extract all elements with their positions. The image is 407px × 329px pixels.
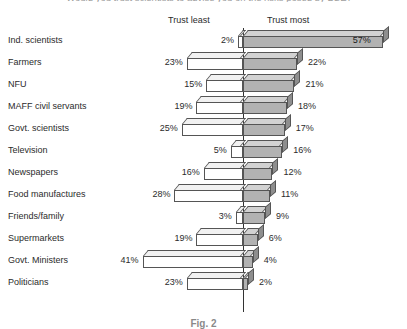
bar-trust-least xyxy=(143,256,243,268)
bar-trust-least xyxy=(231,146,243,158)
value-label-trust-least: 28% xyxy=(152,189,170,199)
bar-side-face xyxy=(270,180,276,197)
bar-trust-most xyxy=(243,256,253,268)
chart-plot-area: Ind. scientists2%57%Farmers23%22%NFU15%2… xyxy=(0,28,407,312)
bar-trust-least xyxy=(236,212,243,224)
category-label-govt-scientists: Govt. scientists xyxy=(8,123,69,133)
category-label-farmers: Farmers xyxy=(8,57,42,67)
chart-row: Newspapers16%12% xyxy=(0,162,407,184)
category-label-politicians: Politicians xyxy=(8,277,49,287)
bar-side-face xyxy=(287,92,293,109)
bar-trust-most xyxy=(243,58,297,70)
figure-bse-trust-chart: Would you trust scientists to advise you… xyxy=(0,0,407,329)
chart-row: Television5%16% xyxy=(0,140,407,162)
category-label-nfu: NFU xyxy=(8,79,27,89)
category-label-newspapers: Newspapers xyxy=(8,167,58,177)
value-label-trust-least: 3% xyxy=(219,211,232,221)
bar-trust-least xyxy=(206,80,243,92)
chart-row: Supermarkets19%6% xyxy=(0,228,407,250)
chart-row: Friends/family3%9% xyxy=(0,206,407,228)
value-label-trust-most: 18% xyxy=(298,101,316,111)
bar-trust-most xyxy=(243,212,265,224)
bar-top-face xyxy=(243,118,288,124)
value-label-trust-least: 5% xyxy=(214,145,227,155)
chart-row: Govt. scientists25%17% xyxy=(0,118,407,140)
bar-trust-least xyxy=(196,234,243,246)
bar-trust-least xyxy=(204,168,243,180)
column-header-trust-most: Trust most xyxy=(267,15,309,25)
chart-row: Farmers23%22% xyxy=(0,52,407,74)
value-label-trust-least: 16% xyxy=(182,167,200,177)
bar-top-face xyxy=(243,184,273,190)
bar-side-face xyxy=(265,202,271,219)
bar-top-face xyxy=(243,52,300,58)
value-label-trust-most: 57% xyxy=(353,35,371,45)
chart-question-title: Would you trust scientists to advise you… xyxy=(44,0,374,2)
column-header-trust-least: Trust least xyxy=(168,15,210,25)
value-label-trust-least: 23% xyxy=(165,277,183,287)
bar-top-face xyxy=(143,250,246,256)
value-label-trust-most: 21% xyxy=(305,79,323,89)
value-label-trust-least: 19% xyxy=(174,101,192,111)
bar-top-face xyxy=(204,162,246,168)
value-label-trust-most: 12% xyxy=(283,167,301,177)
value-label-trust-most: 17% xyxy=(296,123,314,133)
category-label-ind-scientists: Ind. scientists xyxy=(8,35,63,45)
bar-top-face xyxy=(187,272,246,278)
chart-row: Govt. Ministers41%4% xyxy=(0,250,407,272)
bar-trust-most xyxy=(243,168,272,180)
chart-row: Food manufactures28%11% xyxy=(0,184,407,206)
bar-trust-least xyxy=(187,58,243,70)
bar-top-face xyxy=(243,96,290,102)
bar-side-face xyxy=(297,48,303,65)
chart-row: Politicians23%2% xyxy=(0,272,407,294)
bar-trust-most xyxy=(243,234,258,246)
bar-top-face xyxy=(243,140,285,146)
value-label-trust-most: 11% xyxy=(281,189,298,199)
bar-trust-least xyxy=(187,278,243,290)
bar-top-face xyxy=(174,184,246,190)
bar-side-face xyxy=(272,158,278,175)
value-label-trust-most: 6% xyxy=(269,233,282,243)
figure-caption: Fig. 2 xyxy=(0,318,407,329)
value-label-trust-most: 9% xyxy=(276,211,289,221)
bar-trust-most xyxy=(243,102,287,114)
bar-trust-most xyxy=(243,190,270,202)
bar-top-face xyxy=(187,52,246,58)
bar-side-face xyxy=(383,26,389,43)
value-label-trust-most: 2% xyxy=(259,277,272,287)
bar-top-face xyxy=(196,228,246,234)
bar-top-face xyxy=(196,96,246,102)
category-label-supermarkets: Supermarkets xyxy=(8,233,64,243)
value-label-trust-most: 4% xyxy=(264,255,277,265)
value-label-trust-least: 25% xyxy=(160,123,178,133)
bar-top-face xyxy=(243,162,275,168)
value-label-trust-least: 15% xyxy=(184,79,202,89)
category-label-govt-ministers: Govt. Ministers xyxy=(8,255,68,265)
category-label-friends-family: Friends/family xyxy=(8,211,64,221)
bar-side-face xyxy=(294,70,300,87)
bar-top-face xyxy=(182,118,246,124)
value-label-trust-least: 19% xyxy=(174,233,192,243)
value-label-trust-most: 22% xyxy=(308,57,326,67)
chart-row: MAFF civil servants19%18% xyxy=(0,96,407,118)
bar-side-face xyxy=(282,136,288,153)
value-label-trust-least: 2% xyxy=(221,35,234,45)
value-label-trust-least: 41% xyxy=(121,255,139,265)
bar-side-face xyxy=(248,268,254,285)
bar-trust-least xyxy=(174,190,243,202)
bar-top-face xyxy=(243,74,297,80)
bar-trust-least xyxy=(196,102,243,114)
value-label-trust-least: 23% xyxy=(165,57,183,67)
chart-row: NFU15%21% xyxy=(0,74,407,96)
bar-top-face xyxy=(206,74,246,80)
bar-trust-least xyxy=(182,124,243,136)
chart-row: Ind. scientists2%57% xyxy=(0,30,407,52)
bar-trust-most xyxy=(243,278,248,290)
bar-trust-most xyxy=(243,124,285,136)
bar-trust-most xyxy=(243,146,282,158)
category-label-food-manufactures: Food manufactures xyxy=(8,189,86,199)
value-label-trust-most: 16% xyxy=(293,145,311,155)
category-label-maff-civil-servants: MAFF civil servants xyxy=(8,101,87,111)
category-label-television: Television xyxy=(8,145,48,155)
